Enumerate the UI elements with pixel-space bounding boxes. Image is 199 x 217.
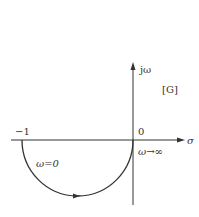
omega-infinity-label: ω→∞ (138, 146, 163, 157)
origin-label: 0 (138, 126, 144, 137)
omega-zero-label: ω=0 (36, 158, 60, 169)
imag-axis-arrow-icon (131, 62, 136, 70)
direction-arrow-icon (73, 194, 80, 199)
real-axis-label: σ (187, 135, 195, 146)
real-axis-arrow-icon (177, 138, 185, 143)
imag-axis-label: jω (139, 64, 151, 75)
plane-label: [G] (162, 84, 178, 95)
minus-one-label: −1 (15, 126, 30, 137)
nyquist-diagram: jω [G] −1 0 σ ω→∞ ω=0 (0, 0, 199, 217)
